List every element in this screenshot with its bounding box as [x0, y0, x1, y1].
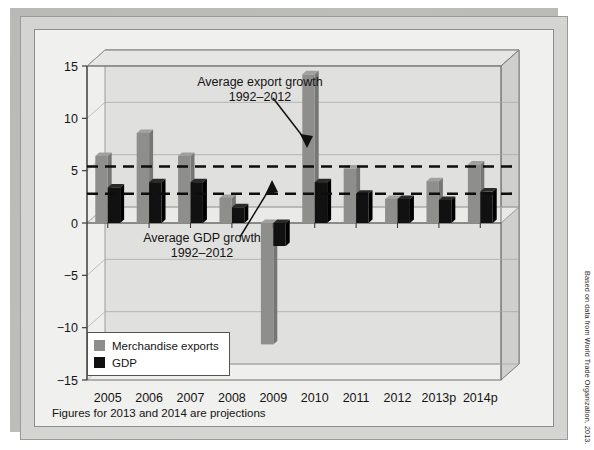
figure-root: 151050−5−10−1520052006200720082009201020… — [0, 0, 594, 450]
bar-gdp-2013p[interactable] — [439, 200, 451, 223]
bar-exports-2010[interactable] — [302, 74, 314, 223]
chart-footnote: Figures for 2013 and 2014 are projection… — [52, 407, 266, 419]
figure-inner-panel: 151050−5−10−1520052006200720082009201020… — [34, 29, 554, 427]
y-axis-tick-label: −5 — [64, 269, 78, 283]
bar-gdp-2011[interactable] — [356, 194, 368, 223]
bar-side-face — [327, 179, 331, 223]
legend-label-gdp: GDP — [112, 357, 137, 369]
x-axis-tick-label: 2013p — [422, 391, 457, 405]
figure-frame: 151050−5−10−1520052006200720082009201020… — [20, 16, 568, 440]
x-axis-tick-label: 2008 — [218, 391, 246, 405]
bar-side-face — [162, 179, 166, 223]
x-axis-tick-label: 2009 — [259, 391, 287, 405]
bar-gdp-2010[interactable] — [315, 182, 327, 223]
bar-side-face — [451, 196, 455, 223]
y-axis-tick-label: 5 — [71, 164, 78, 178]
y-axis-tick-label: −15 — [57, 374, 78, 388]
x-axis-tick-label: 2005 — [94, 391, 122, 405]
y-axis-tick-label: 15 — [64, 60, 78, 74]
x-axis-tick-label: 2014p — [463, 391, 498, 405]
bar-side-face — [286, 220, 290, 247]
bar-gdp-2014p[interactable] — [480, 192, 492, 223]
chart-top-face — [87, 50, 519, 66]
annotation-export-average-line2: 1992–2012 — [229, 90, 292, 104]
y-axis-tick-label: 10 — [64, 112, 78, 126]
y-axis-tick-label: 0 — [71, 217, 78, 231]
x-axis-tick-label: 2010 — [301, 391, 329, 405]
annotation-export-average-line1: Average export growth — [197, 75, 323, 89]
bar-exports-2013p[interactable] — [426, 181, 438, 223]
y-axis-tick-label: −10 — [57, 321, 78, 335]
x-axis-tick-label: 2012 — [384, 391, 412, 405]
bar-exports-2006[interactable] — [137, 133, 149, 223]
bar-exports-2008[interactable] — [219, 198, 231, 223]
legend-item-exports: Merchandise exports — [94, 337, 219, 354]
bar-gdp-2012[interactable] — [398, 199, 410, 223]
bar-side-face — [120, 184, 124, 223]
x-axis-tick-label: 2007 — [177, 391, 205, 405]
legend-item-gdp: GDP — [94, 354, 219, 371]
annotation-gdp-average-line2: 1992–2012 — [171, 246, 234, 260]
bar-exports-2009[interactable] — [261, 223, 273, 344]
bar-exports-2011[interactable] — [344, 169, 356, 223]
legend-swatch-gdp-icon — [94, 357, 105, 368]
bar-gdp-2006[interactable] — [149, 182, 161, 223]
chart-legend: Merchandise exports GDP — [87, 332, 230, 376]
x-axis-tick-label: 2011 — [343, 391, 370, 405]
legend-swatch-exports-icon — [94, 340, 105, 351]
bar-exports-2012[interactable] — [385, 199, 397, 223]
legend-label-exports: Merchandise exports — [112, 340, 219, 352]
bar-side-face — [369, 190, 373, 223]
bar-gdp-2009[interactable] — [273, 223, 285, 246]
bar-side-face — [203, 179, 207, 223]
bar-gdp-2007[interactable] — [191, 182, 203, 223]
bar-gdp-2008[interactable] — [232, 207, 244, 223]
source-credit: Based on data from World Trade Organizat… — [583, 271, 592, 444]
bar-side-face — [410, 195, 414, 223]
x-axis-tick-label: 2006 — [135, 391, 163, 405]
